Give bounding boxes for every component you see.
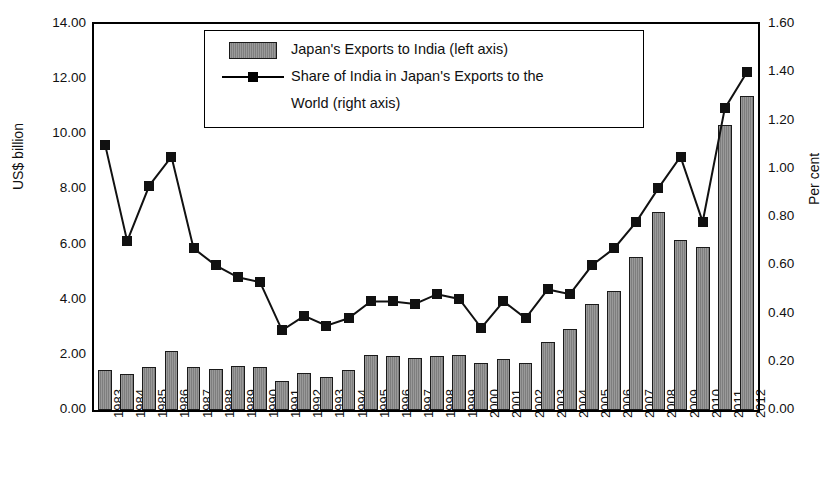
line-marker <box>565 289 575 299</box>
y-tick-left: 12.00 <box>30 70 86 85</box>
y-tick-right: 0.60 <box>768 256 794 271</box>
line-marker <box>587 260 597 270</box>
bar-swatch-icon <box>215 40 291 60</box>
line-marker-icon <box>215 67 291 87</box>
line-marker <box>698 217 708 227</box>
y-tick-left: 14.00 <box>30 15 86 30</box>
legend-label-line: Share of India in Japan's Exports to the <box>291 67 544 86</box>
line-marker <box>366 296 376 306</box>
y-tick-left: 4.00 <box>30 291 86 306</box>
line-marker <box>233 272 243 282</box>
y-tick-right: 0.80 <box>768 208 794 223</box>
legend-key-spacer <box>215 94 291 114</box>
legend-label-line-cont: World (right axis) <box>291 94 400 113</box>
line-marker <box>543 284 553 294</box>
y-axis-right-title: Per cent <box>806 153 822 205</box>
line-marker <box>432 289 442 299</box>
line-marker <box>166 152 176 162</box>
line-marker <box>631 217 641 227</box>
y-tick-left: 2.00 <box>30 346 86 361</box>
y-tick-right: 1.40 <box>768 63 794 78</box>
line-marker <box>476 323 486 333</box>
line-marker <box>100 140 110 150</box>
line-marker <box>299 311 309 321</box>
line-marker <box>653 183 663 193</box>
line-marker <box>498 296 508 306</box>
legend-entry-bar: Japan's Exports to India (left axis) <box>215 40 633 60</box>
legend-label-bar: Japan's Exports to India (left axis) <box>291 40 508 59</box>
y-tick-right: 1.00 <box>768 160 794 175</box>
line-marker <box>388 296 398 306</box>
y-tick-left: 8.00 <box>30 180 86 195</box>
line-marker <box>189 243 199 253</box>
chart-container: US$ billion Per cent 0.002.004.006.008.0… <box>0 0 828 492</box>
line-marker <box>344 313 354 323</box>
y-tick-left: 0.00 <box>30 401 86 416</box>
y-tick-left: 6.00 <box>30 236 86 251</box>
line-marker <box>255 277 265 287</box>
line-marker <box>321 321 331 331</box>
line-marker <box>211 260 221 270</box>
y-tick-right: 1.20 <box>768 112 794 127</box>
y-axis-left-title: US$ billion <box>10 123 26 190</box>
line-marker <box>521 313 531 323</box>
line-marker <box>609 243 619 253</box>
line-marker <box>410 299 420 309</box>
legend-entry-line: Share of India in Japan's Exports to the <box>215 67 633 87</box>
line-marker <box>122 236 132 246</box>
legend-entry-line-cont: World (right axis) <box>215 94 633 114</box>
y-tick-left: 10.00 <box>30 125 86 140</box>
y-tick-right: 1.60 <box>768 15 794 30</box>
line-marker <box>277 325 287 335</box>
line-marker <box>454 294 464 304</box>
chart-legend: Japan's Exports to India (left axis) Sha… <box>204 30 644 128</box>
y-tick-right: 0.40 <box>768 305 794 320</box>
y-tick-right: 0.20 <box>768 353 794 368</box>
line-marker <box>720 103 730 113</box>
y-tick-right: 0.00 <box>768 401 794 416</box>
line-marker <box>742 67 752 77</box>
line-marker <box>144 181 154 191</box>
line-marker <box>676 152 686 162</box>
